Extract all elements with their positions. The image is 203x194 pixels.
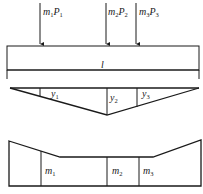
distribution-shape [9, 140, 201, 186]
ordinate-label-3: y3 [141, 88, 150, 100]
segment-label-3: m3 [143, 165, 153, 177]
load-label-2: m2P2 [108, 6, 128, 18]
segment-label-1: m1 [45, 165, 55, 177]
ordinate-label-1: y1 [50, 88, 59, 100]
load-label-3: m3P3 [139, 6, 159, 18]
load-label-1: m1P1 [43, 6, 63, 18]
segment-label-2: m2 [112, 165, 122, 177]
span-label: l [101, 59, 104, 70]
span-dimension [7, 70, 199, 79]
ordinate-label-2: y2 [109, 92, 118, 104]
beam-load-diagram: m1P1 m2P2 m3P3 l y1 y2 y3 m1 m2 [0, 0, 203, 194]
influence-line [10, 88, 199, 115]
